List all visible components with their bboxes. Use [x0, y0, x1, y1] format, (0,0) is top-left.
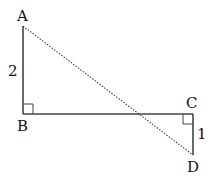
segment-ad-dotted [23, 26, 193, 155]
geometry-diagram: A B C D 2 1 [0, 0, 214, 185]
point-label-b: B [17, 117, 28, 135]
point-label-d: D [187, 158, 199, 176]
length-label-ab: 2 [8, 62, 18, 80]
point-label-a: A [16, 7, 28, 25]
right-angle-marker-b [23, 104, 33, 114]
right-angle-marker-c [183, 114, 193, 124]
point-label-c: C [186, 94, 197, 112]
length-label-cd: 1 [197, 125, 207, 143]
